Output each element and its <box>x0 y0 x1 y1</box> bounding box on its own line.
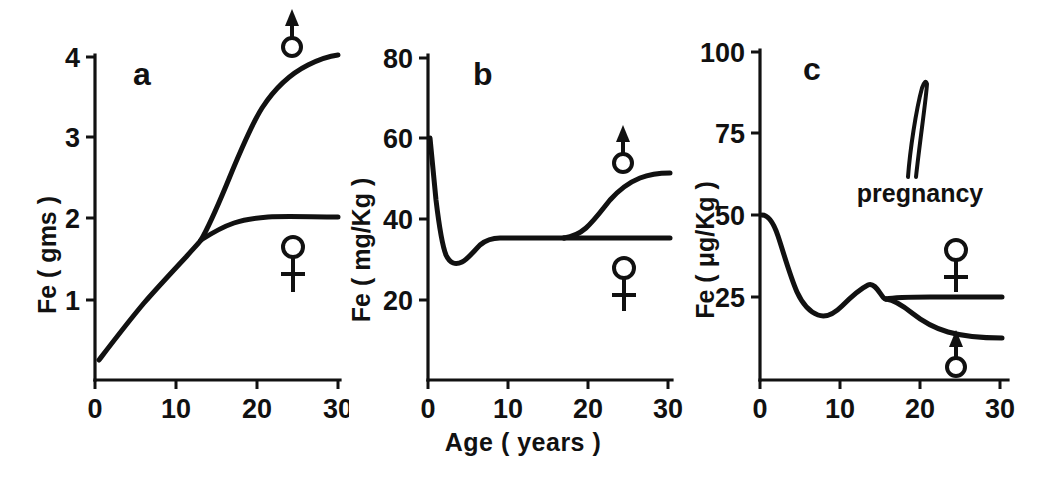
panel-c: Fe ( μg/Kg ) 25 50 75 100 0 10 20 30 <box>690 0 1039 430</box>
panel-a-ylabel: Fe ( gms ) <box>33 196 61 314</box>
panel-c-pregnancy-label: pregnancy <box>857 179 984 207</box>
panel-c-yticklabel-25: 25 <box>715 283 745 313</box>
panel-a-xticklabel-0: 0 <box>87 394 102 424</box>
panel-a-male-symbol <box>283 9 301 56</box>
panel-c-xticklabel-0: 0 <box>752 394 767 424</box>
panel-a-yticklabel-1: 1 <box>65 286 80 316</box>
panel-c-curve-male <box>886 299 1002 338</box>
panel-b-xticklabel-30: 30 <box>653 394 683 424</box>
panel-b-yticklabel-60: 60 <box>383 124 413 154</box>
panel-b: Fe ( mg/Kg ) 20 40 60 80 0 10 20 30 <box>340 0 689 430</box>
panel-a-letter: a <box>133 56 151 92</box>
panel-b-yticklabel-20: 20 <box>383 286 413 316</box>
panel-c-curve-shared <box>762 215 886 316</box>
panel-a-female-symbol <box>281 237 305 292</box>
panel-b-letter: b <box>473 56 493 92</box>
x-axis-title: Age ( years ) <box>0 428 1046 457</box>
panel-b-ylabel: Fe ( mg/Kg ) <box>347 178 375 322</box>
panel-c-xticklabel-30: 30 <box>985 394 1015 424</box>
panel-b-xticklabel-10: 10 <box>493 394 523 424</box>
panel-c-female-symbol <box>944 240 968 292</box>
panel-c-svg: Fe ( μg/Kg ) 25 50 75 100 0 10 20 30 <box>690 0 1046 430</box>
panel-c-yticklabel-50: 50 <box>715 201 745 231</box>
panel-a-curve-female <box>201 217 338 240</box>
panel-b-yticklabel-40: 40 <box>383 205 413 235</box>
panel-a-xticklabel-10: 10 <box>161 394 191 424</box>
panel-b-xticklabel-0: 0 <box>420 394 435 424</box>
panel-c-yticklabel-100: 100 <box>700 38 745 68</box>
panel-c-yticklabel-75: 75 <box>715 119 745 149</box>
panel-a-svg: Fe ( gms ) 1 2 3 4 0 10 <box>0 0 349 430</box>
panel-b-male-symbol <box>614 125 632 172</box>
panel-b-xticklabel-20: 20 <box>573 394 603 424</box>
panel-b-svg: Fe ( mg/Kg ) 20 40 60 80 0 10 20 30 <box>340 0 689 430</box>
panel-c-xticklabel-20: 20 <box>905 394 935 424</box>
panel-a-curve-shared <box>99 240 201 360</box>
panel-c-xticklabel-10: 10 <box>825 394 855 424</box>
panel-a-xticklabel-20: 20 <box>242 394 272 424</box>
panel-a: Fe ( gms ) 1 2 3 4 0 10 <box>0 0 349 430</box>
panel-container: Fe ( gms ) 1 2 3 4 0 10 <box>0 0 1046 430</box>
panel-b-curve-shared <box>430 138 564 264</box>
panel-a-yticklabel-4: 4 <box>65 43 80 73</box>
panel-a-curve-male <box>201 55 338 240</box>
panel-a-yticklabel-3: 3 <box>65 123 80 153</box>
figure-iron-vs-age: Fe ( gms ) 1 2 3 4 0 10 <box>0 0 1046 486</box>
panel-b-yticklabel-80: 80 <box>383 44 413 74</box>
panel-a-yticklabel-2: 2 <box>65 204 80 234</box>
panel-c-pregnancy-spike <box>908 82 927 177</box>
panel-b-curve-male <box>564 173 670 238</box>
panel-b-female-symbol <box>612 258 636 311</box>
panel-c-curve-female <box>886 297 1002 299</box>
panel-c-letter: c <box>803 51 821 87</box>
